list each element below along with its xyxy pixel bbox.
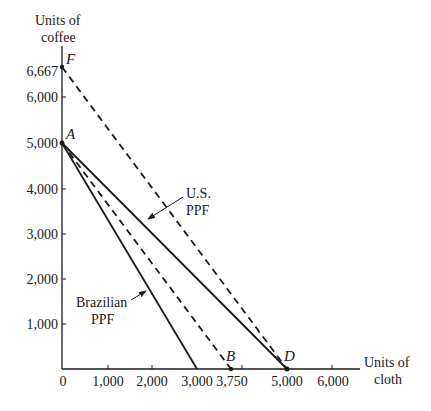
x-tick-0: 0 bbox=[60, 374, 67, 389]
x-tick-1000: 1,000 bbox=[92, 374, 124, 389]
brazilian-ppf-line bbox=[62, 143, 197, 369]
us-ppf-line bbox=[62, 143, 287, 369]
y-tick-1000: 1,000 bbox=[27, 317, 59, 332]
x-tick-3750: 3,750 bbox=[216, 374, 248, 389]
x-tick-6000: 6,000 bbox=[317, 374, 349, 389]
point-f-marker bbox=[60, 65, 64, 69]
x-tick-labels: 0 1,000 2,000 3,000 3,750 5,000 6,000 bbox=[60, 374, 349, 389]
point-b-marker bbox=[229, 367, 233, 371]
y-tick-6000: 6,000 bbox=[27, 90, 59, 105]
point-f-label: F bbox=[65, 51, 76, 67]
ppf-chart: Units of coffee Units of cloth 1,000 2,0… bbox=[0, 0, 431, 411]
y-tick-5000: 5,000 bbox=[27, 136, 59, 151]
x-tick-3000: 3,000 bbox=[181, 374, 213, 389]
trade-line-ab bbox=[62, 143, 231, 369]
point-d-marker bbox=[285, 367, 290, 372]
brazilian-ppf-arrow bbox=[131, 291, 146, 300]
point-b-label: B bbox=[226, 348, 235, 364]
x-tick-2000: 2,000 bbox=[136, 374, 168, 389]
brazilian-ppf-label-line2: PPF bbox=[91, 312, 115, 327]
x-axis-label-line2: cloth bbox=[374, 372, 402, 387]
y-tick-3000: 3,000 bbox=[27, 227, 59, 242]
y-tick-4000: 4,000 bbox=[27, 182, 59, 197]
us-ppf-arrow bbox=[148, 197, 183, 219]
y-axis-label-line1: Units of bbox=[35, 13, 81, 28]
x-axis-label-line1: Units of bbox=[364, 355, 410, 370]
point-a-marker bbox=[60, 141, 65, 146]
y-tick-labels: 1,000 2,000 3,000 4,000 5,000 6,000 6,66… bbox=[27, 64, 59, 332]
us-ppf-label-line2: PPF bbox=[186, 203, 210, 218]
point-d-label: D bbox=[283, 348, 295, 364]
us-ppf-label-line1: U.S. bbox=[186, 186, 211, 201]
y-axis-label-line2: coffee bbox=[41, 30, 76, 45]
x-tick-5000: 5,000 bbox=[271, 374, 303, 389]
point-a-label: A bbox=[65, 126, 76, 142]
y-tick-2000: 2,000 bbox=[27, 272, 59, 287]
y-tick-6667: 6,667 bbox=[27, 64, 59, 79]
brazilian-ppf-label-line1: Brazilian bbox=[76, 295, 127, 310]
